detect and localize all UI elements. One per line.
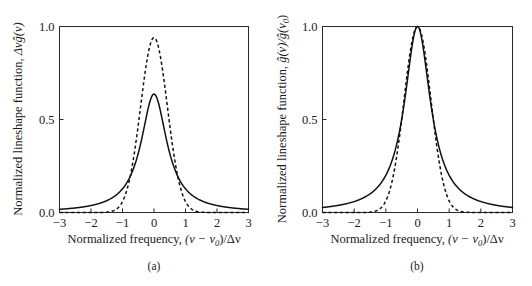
x-tick-label: −1 [116,216,129,230]
y-tick-marks [60,27,64,213]
plot-frame [60,27,249,213]
x-tick-label: 0 [151,216,157,230]
x-tick-label: −2 [348,216,361,230]
y-tick-label: 1.0 [302,20,318,34]
x-axis-title: Normalized frequency, (ν − ν0)/Δν [67,232,240,248]
x-tick-label: −3 [53,216,66,230]
y-tick-marks [323,27,327,213]
x-tick-label: −1 [379,216,392,230]
y-tick-label: 0.5 [302,113,318,127]
y-axis-title: Normalized lineshape function, ĝ(ν)/ĝ(ν0… [275,15,291,223]
gaussian-curve [323,27,513,213]
x-tick-label: 3 [509,216,515,230]
x-tick-label: 3 [245,216,251,230]
x-tick-label: 1 [182,216,188,230]
panel-a-svg: −3−2−10123 0.00.51.0 Normalized frequenc… [0,0,266,286]
y-axis-title: Normalized lineshape function, Δνĝ(ν) [11,22,25,215]
y-tick-label: 0.0 [39,206,55,220]
panel-a: −3−2−10123 0.00.51.0 Normalized frequenc… [0,0,266,286]
y-tick-labels: 0.00.51.0 [302,20,318,220]
plot-frame [323,27,513,213]
x-tick-label: 2 [478,216,484,230]
y-tick-labels: 0.00.51.0 [39,20,55,220]
panel-b-plot-area [323,27,513,213]
x-tick-label: −2 [84,216,97,230]
panel-caption: (a) [148,260,161,273]
y-tick-label: 1.0 [39,20,55,34]
lorentzian-curve [60,94,249,209]
panel-b-svg: −3−2−10123 0.00.51.0 Normalized frequenc… [266,0,532,286]
gaussian-curve [60,38,249,213]
panel-a-plot-area [60,27,249,213]
lineshape-figure: −3−2−10123 0.00.51.0 Normalized frequenc… [0,0,532,286]
x-axis-title: Normalized frequency, (ν − ν0)/Δν [330,232,503,248]
panel-b: −3−2−10123 0.00.51.0 Normalized frequenc… [266,0,532,286]
x-tick-label: 1 [446,216,452,230]
y-tick-label: 0.5 [39,113,55,127]
lorentzian-curve [323,27,513,208]
y-tick-label: 0.0 [302,206,318,220]
x-tick-labels: −3−2−10123 [53,216,252,230]
x-tick-labels: −3−2−10123 [316,216,516,230]
x-tick-label: 0 [414,216,420,230]
x-tick-label: −3 [316,216,329,230]
x-tick-label: 2 [214,216,220,230]
panel-caption: (b) [410,260,424,273]
